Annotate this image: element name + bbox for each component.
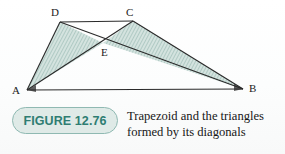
vertex-label-d: D bbox=[51, 7, 59, 18]
shaded-triangle-ceb bbox=[103, 21, 243, 89]
vertex-tip-b bbox=[234, 84, 243, 91]
figure-caption: Trapezoid and the triangles formed by it… bbox=[127, 108, 283, 140]
segment-ab bbox=[27, 89, 243, 90]
figure-number-badge: FIGURE 12.76 bbox=[12, 107, 118, 134]
segment-dc bbox=[60, 21, 133, 22]
shaded-triangle-ade bbox=[27, 22, 103, 90]
vertex-label-e: E bbox=[101, 47, 108, 58]
vertex-label-b: B bbox=[249, 83, 257, 94]
vertex-label-c: C bbox=[126, 7, 134, 18]
caption-line-1: Trapezoid and the triangles bbox=[127, 108, 283, 124]
trapezoid-diagram bbox=[0, 0, 285, 110]
figure-container: D C A B E FIGURE 12.76 Trapezoid and the… bbox=[0, 0, 285, 154]
figure-number-label: FIGURE 12.76 bbox=[23, 114, 106, 128]
caption-line-2: formed by its diagonals bbox=[127, 124, 283, 140]
diagonal-ac bbox=[27, 21, 133, 90]
vertex-label-a: A bbox=[12, 85, 20, 96]
